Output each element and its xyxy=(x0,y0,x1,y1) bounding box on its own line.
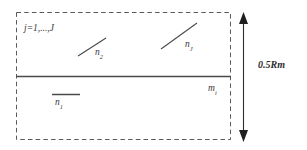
segment-label-n1: n1 xyxy=(55,98,63,108)
dimension-arrow-head-bottom xyxy=(239,130,248,142)
index-range-label: j=1,...,J xyxy=(24,24,54,34)
dimension-label: 0.5Rm xyxy=(258,60,285,70)
divider-label-mi-subscript: i xyxy=(215,89,217,96)
segment-label-n2: n2 xyxy=(95,48,103,58)
divider-label-mi: mi xyxy=(208,84,217,94)
segment-label-nJ: nJ xyxy=(185,40,193,50)
segment-label-nJ-subscript: J xyxy=(190,45,193,52)
dimension-arrow-head-top xyxy=(239,12,248,24)
segment-label-n1-subscript: 1 xyxy=(60,103,63,110)
divider-label-mi-base: m xyxy=(208,83,215,93)
diagram-canvas: j=1,...,J n2 nJ n1 mi 0.5Rm xyxy=(0,0,307,150)
segment-label-n2-subscript: 2 xyxy=(100,53,103,60)
